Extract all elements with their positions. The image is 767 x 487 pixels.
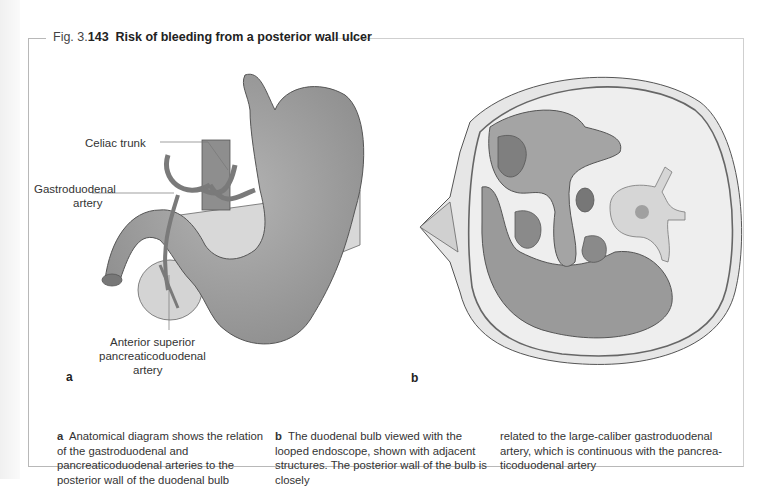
label-anterior-superior-line1: Anterior superior: [110, 335, 195, 349]
figure-number-prefix: Fig. 3.: [53, 30, 88, 44]
panel-b-letter: b: [411, 371, 418, 385]
figure-number: 143: [88, 30, 109, 44]
page-margin-strip: [0, 0, 20, 479]
caption-a-letter: a: [57, 430, 63, 442]
label-anterior-superior-line2: pancreaticoduodenal: [99, 349, 206, 363]
caption-b-continued: related to the large-caliber gastroduode…: [500, 429, 725, 473]
figure-title-text: Risk of bleeding from a posterior wall u…: [116, 30, 372, 44]
caption-b-letter: b: [275, 430, 282, 442]
label-gastroduodenal-artery-line2: artery: [73, 196, 102, 210]
caption-b-text: The duodenal bulb viewed with the looped…: [275, 430, 487, 486]
frame-top-left-rule: [28, 38, 46, 39]
label-gastroduodenal-artery-line1: Gastroduodenal: [34, 182, 116, 196]
panel-a-letter: a: [66, 370, 73, 384]
figure-title: Fig. 3.143 Risk of bleeding from a poste…: [53, 30, 372, 44]
stomach-artery-diagram: [60, 50, 400, 360]
caption-a: a Anatomical diagram shows the relation …: [57, 429, 272, 487]
label-anterior-superior-line3: artery: [133, 363, 162, 377]
frame-top-right-rule: [333, 38, 743, 39]
caption-a-text: Anatomical diagram shows the relation of…: [57, 430, 263, 486]
caption-b: b The duodenal bulb viewed with the loop…: [275, 429, 497, 487]
duodenal-bulb-cross-section: [410, 62, 750, 372]
label-celiac-trunk: Celiac trunk: [85, 136, 146, 150]
